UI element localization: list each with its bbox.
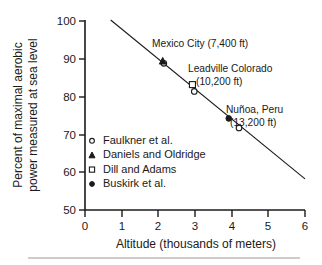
annotation-nunoa-line1: Nuñoa, Peru: [226, 104, 283, 115]
y-tick-label-90: 90: [63, 53, 76, 65]
x-tick-label-2: 2: [155, 220, 161, 232]
legend-label-0: Faulkner et al.: [103, 134, 173, 146]
y-axis-title-line2: power measured at sea level: [26, 38, 40, 191]
x-tick-label-1: 1: [119, 220, 125, 232]
annotation-leadville-line1: Leadville Colorado: [188, 63, 273, 74]
y-tick-label-60: 60: [63, 166, 76, 178]
legend-label-3: Buskirk et al.: [103, 177, 166, 189]
y-tick-label-70: 70: [63, 129, 76, 141]
x-axis-ticks: 0 1 2 3 4 5 6: [82, 210, 308, 232]
legend-marker-open-circle: [90, 138, 95, 143]
chart-figure: Percent of maximal aerobic power measure…: [0, 0, 322, 265]
y-axis-title: Percent of maximal aerobic power measure…: [11, 38, 40, 191]
legend-label-1: Daniels and Oldridge: [103, 148, 206, 160]
y-tick-label-80: 80: [63, 91, 76, 103]
x-tick-label-3: 3: [192, 220, 198, 232]
annotation-nunoa-line2: (13,200 ft): [230, 117, 276, 128]
data-point-open-square-0: [189, 82, 195, 88]
scatter-plot-svg: Percent of maximal aerobic power measure…: [0, 0, 322, 265]
legend-marker-filled-circle: [90, 182, 95, 187]
y-axis-title-line1: Percent of maximal aerobic: [11, 42, 25, 187]
annotation-leadville-line2: (10,200 ft): [196, 76, 242, 87]
legend-marker-open-square: [89, 167, 94, 172]
x-axis-title: Altitude (thousands of meters): [116, 237, 276, 251]
x-tick-label-0: 0: [82, 220, 88, 232]
x-tick-label-5: 5: [265, 220, 271, 232]
y-tick-label-50: 50: [63, 204, 76, 216]
data-point-open-circle-1: [191, 89, 197, 95]
annotation-mexico-city: Mexico City (7,400 ft): [152, 38, 248, 49]
legend-marker-filled-triangle: [89, 152, 95, 158]
y-axis-ticks: 100 90 80 70 60 50: [57, 15, 85, 216]
x-tick-label-4: 4: [229, 220, 236, 232]
x-tick-label-6: 6: [302, 220, 308, 232]
legend-label-2: Dill and Adams: [103, 163, 177, 175]
legend: Faulkner et al.Daniels and OldridgeDill …: [89, 134, 206, 189]
annotations-group: Mexico City (7,400 ft)Leadville Colorado…: [152, 38, 283, 128]
y-tick-label-100: 100: [57, 15, 76, 27]
